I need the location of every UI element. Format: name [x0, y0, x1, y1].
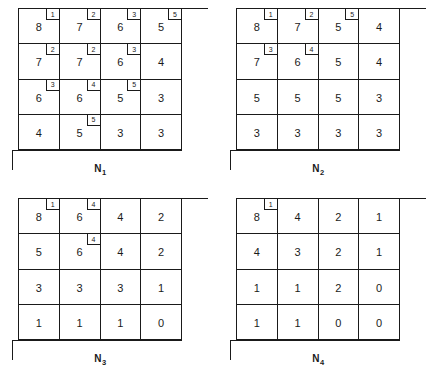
matrix-grid: 81421432111201100	[236, 198, 400, 340]
cell-value: 3	[254, 125, 260, 139]
matrix-cell: 81	[19, 199, 60, 234]
panel-caption-base: N	[94, 353, 101, 364]
cell-value: 3	[294, 244, 300, 258]
cell-value: 1	[158, 280, 164, 294]
cell-value: 3	[335, 125, 341, 139]
cell-corner-marker: 3	[264, 44, 277, 55]
matrix-cell: 4	[359, 9, 400, 44]
cell-corner-marker: 2	[87, 44, 100, 55]
panel-caption-base: N	[312, 163, 319, 174]
cell-corner-marker: 5	[87, 115, 100, 126]
cell-corner-marker: 4	[87, 234, 100, 245]
matrix-cell: 1	[237, 270, 278, 305]
axis-horizontal-line	[12, 340, 182, 341]
panel-caption-subscript: 3	[102, 358, 106, 367]
cell-value: 5	[36, 244, 42, 258]
matrix-cell: 4	[19, 115, 60, 150]
matrix-cell: 5	[19, 234, 60, 269]
panel-caption: N2	[218, 163, 418, 174]
cell-corner-marker: 4	[305, 44, 318, 55]
cell-value: 5	[76, 125, 82, 139]
cell-value: 3	[117, 280, 123, 294]
matrix-cell: 1	[237, 305, 278, 340]
matrix-cell: 3	[359, 115, 400, 150]
matrix-cell: 2	[141, 199, 182, 234]
matrix-cell: 3	[237, 115, 278, 150]
matrix-cell: 3	[141, 80, 182, 115]
matrix-cell: 0	[359, 270, 400, 305]
cell-value: 1	[254, 315, 260, 329]
cell-value: 6	[76, 90, 82, 104]
corner-marker-value: 5	[173, 11, 177, 18]
cell-value: 1	[294, 280, 300, 294]
cell-value: 5	[158, 19, 164, 33]
matrix-cell: 63	[101, 44, 142, 79]
cell-value: 4	[376, 19, 382, 33]
corner-marker-value: 4	[92, 236, 96, 243]
panel-caption-subscript: 4	[320, 358, 324, 367]
matrix-cell: 3	[19, 270, 60, 305]
matrix-cell: 3	[319, 115, 360, 150]
matrix-cell: 5	[319, 44, 360, 79]
matrix-cell: 72	[19, 44, 60, 79]
matrix-cell: 72	[278, 9, 319, 44]
cell-value: 5	[117, 90, 123, 104]
cell-value: 8	[36, 209, 42, 223]
cell-value: 3	[376, 90, 382, 104]
cell-value: 1	[254, 280, 260, 294]
cell-value: 6	[117, 19, 123, 33]
matrix-cell: 4	[101, 199, 142, 234]
cell-value: 5	[294, 90, 300, 104]
cell-corner-marker: 1	[46, 9, 59, 20]
matrix-cell: 55	[319, 9, 360, 44]
cell-value: 4	[376, 54, 382, 68]
matrix-cell: 1	[60, 305, 101, 340]
corner-marker-value: 2	[51, 46, 55, 53]
matrix-cell: 1	[278, 270, 319, 305]
matrix-cell: 5	[237, 80, 278, 115]
cell-value: 2	[158, 244, 164, 258]
matrix-panel-1: 817263557272634636455345533N1	[0, 0, 218, 190]
corner-marker-value: 3	[269, 46, 273, 53]
matrix-cell: 1	[278, 305, 319, 340]
matrix-cell: 0	[319, 305, 360, 340]
cell-value: 2	[335, 244, 341, 258]
matrix-cell: 2	[141, 234, 182, 269]
matrix-cell: 64	[60, 80, 101, 115]
matrix-cell: 55	[60, 115, 101, 150]
cell-corner-marker: 3	[127, 9, 140, 20]
matrix-cell: 55	[141, 9, 182, 44]
matrix-cell: 64	[60, 199, 101, 234]
cell-value: 1	[376, 244, 382, 258]
matrix-cell: 1	[359, 234, 400, 269]
cell-value: 3	[158, 125, 164, 139]
matrix-cell: 4	[101, 234, 142, 269]
cell-value: 8	[254, 209, 260, 223]
matrix-cell: 3	[359, 80, 400, 115]
corner-marker-value: 2	[92, 11, 96, 18]
corner-marker-value: 5	[350, 11, 354, 18]
cell-value: 0	[158, 315, 164, 329]
cell-value: 1	[376, 209, 382, 223]
corner-marker-value: 5	[132, 81, 136, 88]
cell-value: 4	[254, 244, 260, 258]
cell-value: 5	[335, 90, 341, 104]
corner-marker-value: 5	[92, 116, 96, 123]
matrix-cell: 72	[60, 44, 101, 79]
matrix-cell: 73	[237, 44, 278, 79]
panel-caption-base: N	[312, 353, 319, 364]
corner-marker-value: 3	[132, 11, 136, 18]
matrix-panel-3: 8164425644233311110N3	[0, 190, 218, 379]
matrix-cell: 4	[141, 44, 182, 79]
matrix-cell: 3	[101, 115, 142, 150]
matrix-cell: 4	[359, 44, 400, 79]
panel-caption-base: N	[94, 163, 101, 174]
cell-value: 1	[76, 315, 82, 329]
matrix-cell: 3	[278, 115, 319, 150]
axis-horizontal-line	[12, 150, 182, 151]
matrix-cell: 81	[237, 9, 278, 44]
cell-value: 7	[76, 19, 82, 33]
cell-corner-marker: 1	[264, 199, 277, 210]
matrix-cell: 1	[359, 199, 400, 234]
corner-marker-value: 4	[310, 46, 314, 53]
